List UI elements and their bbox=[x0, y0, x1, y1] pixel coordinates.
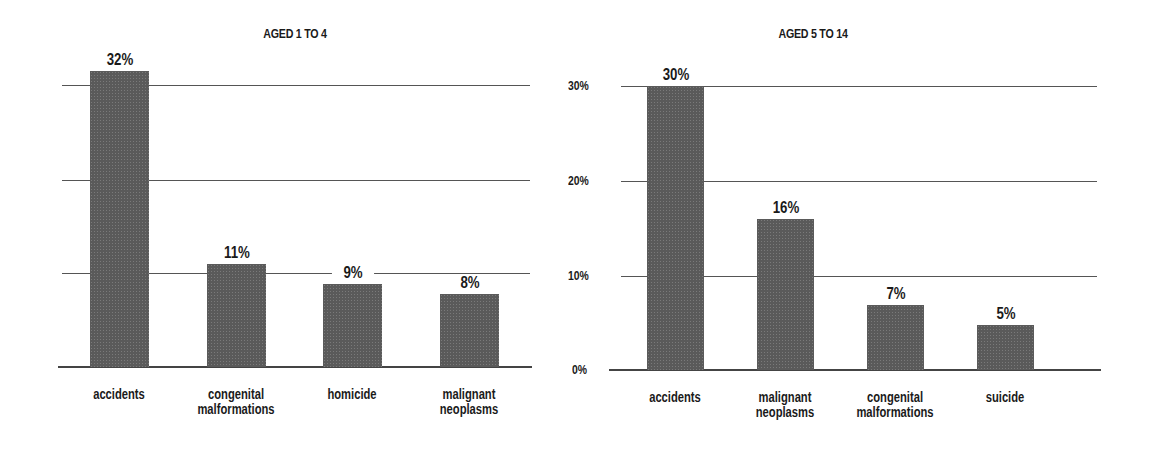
category-label: suicide bbox=[957, 390, 1053, 405]
bar-suicide bbox=[977, 325, 1034, 370]
value-label: 30% bbox=[653, 66, 698, 84]
category-label: accidents bbox=[627, 390, 723, 405]
chart-title: AGED 5 TO 14 bbox=[731, 26, 895, 41]
category-label: malignant neoplasms bbox=[737, 390, 833, 420]
category-label: congenital malformations bbox=[847, 390, 943, 420]
value-label: 7% bbox=[877, 285, 916, 303]
value-label: 5% bbox=[987, 305, 1026, 323]
value-label: 16% bbox=[763, 199, 808, 217]
bar-malignant-neoplasms bbox=[757, 219, 814, 370]
y-tick-label: 10% bbox=[568, 268, 589, 283]
y-tick-label: 20% bbox=[568, 173, 589, 188]
y-tick-label: 30% bbox=[568, 78, 589, 93]
bar-congenital-malformations bbox=[867, 305, 924, 370]
bar-accidents bbox=[647, 86, 704, 370]
y-tick-label: 0% bbox=[572, 362, 587, 377]
chart-aged-5-to-14: AGED 5 TO 14 30% 20% 10% 0% 30% 16% 7% 5… bbox=[0, 0, 1159, 453]
